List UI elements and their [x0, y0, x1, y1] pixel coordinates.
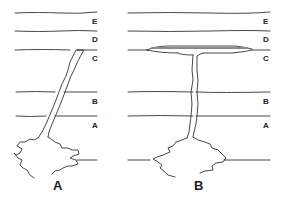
panel-b-label-d: D	[263, 36, 269, 44]
panel-b-layer-lines	[128, 12, 270, 160]
panel-a-label-b: B	[92, 98, 98, 106]
panel-a-caption: A	[53, 179, 62, 192]
panel-b-sill	[147, 46, 252, 53]
panel-b-roots	[153, 137, 226, 177]
panel-a-roots	[14, 137, 79, 178]
figure: E D C B A E D C B A A B	[0, 0, 287, 200]
panel-a-label-c: C	[92, 55, 98, 63]
panel-b-label-c: C	[263, 55, 269, 63]
panel-a-label-e: E	[92, 18, 97, 26]
panel-b-label-b: B	[263, 98, 269, 106]
panel-b-label-e: E	[263, 18, 268, 26]
panel-b-dike	[178, 53, 203, 138]
panel-b-caption: B	[194, 179, 203, 192]
panel-a-dike	[38, 50, 84, 138]
panel-a-label-a: A	[92, 122, 98, 130]
panel-a-layer-lines	[15, 12, 97, 160]
panel-b-label-a: A	[263, 122, 269, 130]
panel-a-label-d: D	[92, 36, 98, 44]
cross-section-diagram	[0, 0, 287, 200]
